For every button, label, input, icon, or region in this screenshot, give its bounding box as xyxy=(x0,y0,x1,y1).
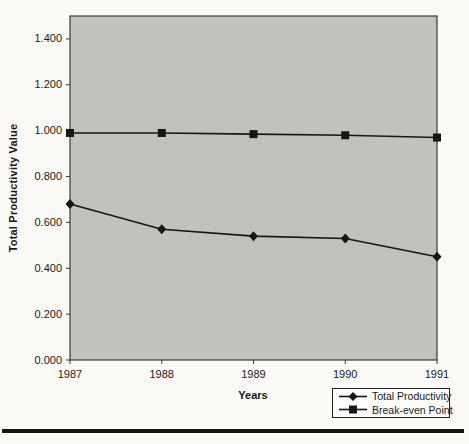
legend-item-total-productivity: Total Productivity xyxy=(333,390,449,403)
y-tick-label: 0.800 xyxy=(0,170,62,182)
bottom-rule xyxy=(2,429,464,433)
y-tick-label: 1.400 xyxy=(0,32,62,44)
diamond-marker-icon xyxy=(338,391,368,402)
x-tick-label: 1990 xyxy=(323,368,367,380)
x-tick-label: 1988 xyxy=(140,368,184,380)
y-tick-label: 0.000 xyxy=(0,354,62,366)
x-tick-label: 1991 xyxy=(415,368,459,380)
square-marker-icon xyxy=(338,404,368,415)
scanned-chart-figure: Total Productivity Value Years 0.0000.20… xyxy=(0,0,469,444)
y-tick-label: 0.600 xyxy=(0,216,62,228)
legend: Total Productivity Break-even Point xyxy=(332,388,450,418)
y-tick-label: 0.200 xyxy=(0,308,62,320)
data-point-square xyxy=(66,129,74,137)
data-point-square xyxy=(341,131,349,139)
data-point-square xyxy=(433,134,441,142)
data-point-square xyxy=(250,130,258,138)
legend-item-break-even-point: Break-even Point xyxy=(333,404,449,417)
y-tick-label: 1.200 xyxy=(0,78,62,90)
legend-label: Total Productivity xyxy=(372,390,451,402)
y-tick-label: 0.400 xyxy=(0,262,62,274)
x-tick-label: 1989 xyxy=(232,368,276,380)
y-tick-label: 1.000 xyxy=(0,124,62,136)
legend-label: Break-even Point xyxy=(372,404,453,416)
data-point-square xyxy=(158,129,166,137)
x-axis-title: Years xyxy=(231,389,275,401)
plot-background xyxy=(70,16,437,360)
y-axis-title-text: Total Productivity Value xyxy=(7,124,19,253)
x-tick-label: 1987 xyxy=(48,368,92,380)
